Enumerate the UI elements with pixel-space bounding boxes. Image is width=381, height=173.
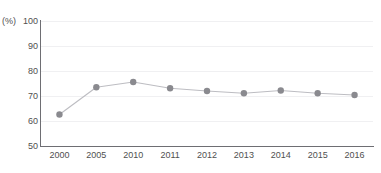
x-axis-tick-label: 2011 — [150, 150, 190, 160]
series-markers — [56, 79, 358, 118]
x-axis-tick-label: 2014 — [261, 150, 301, 160]
x-axis-tick-label: 2010 — [113, 150, 153, 160]
x-axis-tick-label: 2015 — [298, 150, 338, 160]
x-axis-tick-labels: 200020052010201120122013201420152016 — [41, 150, 373, 166]
line-chart: (%) 1009080706050 2000200520102011201220… — [0, 0, 381, 173]
series-layer — [0, 0, 381, 173]
data-point-marker — [351, 92, 357, 98]
x-axis-tick-label: 2016 — [335, 150, 375, 160]
data-point-marker — [130, 79, 136, 85]
data-point-marker — [241, 90, 247, 96]
x-axis-tick-label: 2000 — [39, 150, 79, 160]
data-point-marker — [167, 85, 173, 91]
data-point-marker — [56, 111, 62, 117]
x-axis-tick-label: 2013 — [224, 150, 264, 160]
x-axis-tick-label: 2005 — [76, 150, 116, 160]
series-line — [59, 82, 354, 115]
data-point-marker — [204, 88, 210, 94]
data-point-marker — [314, 90, 320, 96]
x-axis-tick-label: 2012 — [187, 150, 227, 160]
data-point-marker — [278, 87, 284, 93]
data-point-marker — [93, 84, 99, 90]
